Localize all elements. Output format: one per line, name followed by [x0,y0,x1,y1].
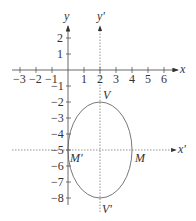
svg-text:x: x [179,62,186,76]
svg-text:3: 3 [113,72,119,86]
svg-text:−1: −1 [51,79,64,93]
svg-text:V': V' [102,202,112,216]
svg-text:2: 2 [57,31,63,45]
svg-text:5: 5 [145,72,151,86]
svg-text:−2: −2 [29,72,42,86]
coordinate-diagram: −3 −2 −1 1 2 3 4 5 6 2 1 −1 −2 −3 −4 −5 … [0,0,196,221]
svg-text:−4: −4 [51,127,64,141]
svg-text:−2: −2 [51,95,64,109]
svg-text:−7: −7 [51,175,64,189]
svg-text:−3: −3 [51,111,64,125]
y-ticks [66,38,71,198]
svg-text:−6: −6 [51,159,64,173]
svg-text:y': y' [96,9,105,23]
svg-text:M: M [134,151,146,165]
svg-text:−5: −5 [51,143,64,157]
svg-text:1: 1 [57,47,63,61]
svg-text:x': x' [177,142,186,156]
svg-text:2: 2 [97,72,103,86]
svg-text:M': M' [69,151,83,165]
svg-text:−8: −8 [51,191,64,205]
svg-text:V: V [103,88,112,102]
svg-text:4: 4 [129,72,135,86]
svg-text:1: 1 [81,72,87,86]
svg-text:y: y [63,9,70,23]
svg-text:6: 6 [161,72,167,86]
svg-text:−3: −3 [13,72,26,86]
